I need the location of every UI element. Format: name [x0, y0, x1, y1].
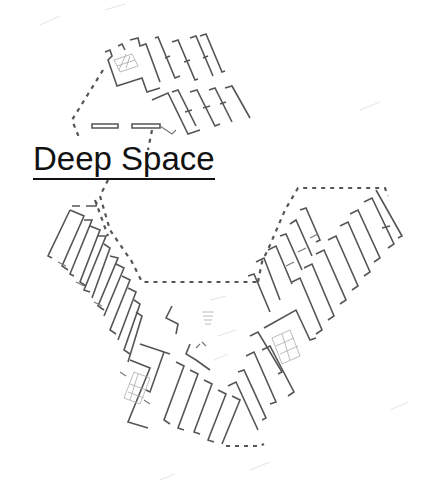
- floor-plan-svg: [0, 0, 428, 485]
- left-wing-units: [48, 202, 142, 362]
- upper-wing-units: [92, 34, 250, 134]
- floor-plan-drawing: [0, 0, 428, 485]
- center-core: [166, 296, 236, 370]
- bottom-units: [120, 310, 316, 446]
- right-wing-units: [248, 190, 402, 334]
- upper-wing-boundary: [72, 70, 152, 150]
- deep-space-label: Deep Space: [33, 142, 215, 180]
- bottom-boundary: [226, 444, 264, 446]
- left-inner-boundary: [100, 180, 258, 282]
